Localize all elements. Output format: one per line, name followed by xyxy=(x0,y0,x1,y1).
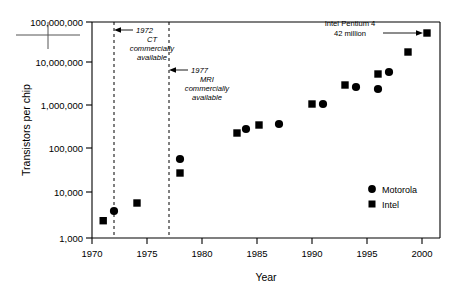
pentium-annotation-arrowhead xyxy=(416,30,423,35)
y-tick-label: 100,000 xyxy=(49,143,83,154)
x-tick-label: 1995 xyxy=(356,248,377,259)
data-point-intel xyxy=(255,121,262,128)
series-motorola-points xyxy=(110,68,393,215)
x-tick-label: 1970 xyxy=(81,248,102,259)
data-point-intel xyxy=(341,81,348,88)
pentium-annotation-line-1: Intel Pentium 4 xyxy=(325,19,376,28)
transistors-per-chip-scatter-chart: 100,000,000 10,000,000 1,000,000 100,000… xyxy=(0,0,459,299)
mri-annotation-line-2: MRI xyxy=(200,75,215,84)
data-point-intel xyxy=(233,129,240,136)
x-tick-label: 1980 xyxy=(191,248,212,259)
ct-annotation-line-2: CT xyxy=(147,35,158,44)
x-tick-label: 1975 xyxy=(136,248,157,259)
data-point-intel xyxy=(133,199,140,206)
data-point-motorola xyxy=(110,207,118,215)
y-axis-title: Transistors per chip xyxy=(20,84,32,176)
legend-label-intel: Intel xyxy=(382,200,399,210)
x-tick-label: 1990 xyxy=(301,248,322,259)
y-tick-label: 1,000 xyxy=(59,233,83,244)
data-point-intel xyxy=(100,217,107,224)
data-point-intel xyxy=(176,169,183,176)
x-tick-label: 2000 xyxy=(411,248,432,259)
data-point-motorola xyxy=(275,120,283,128)
data-point-motorola xyxy=(242,125,250,133)
legend-circle-marker-icon xyxy=(368,185,376,193)
y-tick-label: 10,000 xyxy=(54,187,83,198)
y-tick-label: 100,000,000 xyxy=(30,17,83,28)
data-point-motorola xyxy=(176,155,184,163)
mri-annotation: 1977 MRI commercially available xyxy=(169,66,230,102)
data-point-motorola xyxy=(319,100,327,108)
ct-annotation-line-1: 1972 xyxy=(136,26,154,35)
x-axis-title: Year xyxy=(255,271,277,283)
data-point-intel xyxy=(404,48,411,55)
mri-annotation-arrowhead xyxy=(169,67,176,72)
y-tick-label: 1,000,000 xyxy=(41,100,83,111)
x-axis-ticks xyxy=(92,238,422,244)
x-tick-label: 1985 xyxy=(246,248,267,259)
legend-label-motorola: Motorola xyxy=(382,185,417,195)
data-point-intel xyxy=(423,29,430,36)
pentium-annotation: Intel Pentium 4 42 million xyxy=(325,19,423,38)
ct-annotation-arrowhead xyxy=(114,27,121,32)
ct-annotation-line-3: commercially xyxy=(130,44,176,53)
y-axis-tick-labels: 100,000,000 10,000,000 1,000,000 100,000… xyxy=(30,17,83,244)
data-point-motorola xyxy=(385,68,393,76)
mri-annotation-line-1: 1977 xyxy=(191,66,209,75)
data-point-motorola xyxy=(374,85,382,93)
pentium-annotation-line-2: 42 million xyxy=(334,29,366,38)
legend-item-motorola: Motorola xyxy=(368,185,417,195)
mri-annotation-line-4: available xyxy=(192,93,222,102)
ct-annotation-line-4: available xyxy=(137,53,167,62)
ct-annotation: 1972 CT commercially available xyxy=(114,26,175,62)
legend-square-marker-icon xyxy=(369,201,376,208)
mri-annotation-line-3: commercially xyxy=(185,84,231,93)
chart-legend: Motorola Intel xyxy=(368,185,417,210)
y-axis-ticks xyxy=(86,22,92,238)
legend-item-intel: Intel xyxy=(369,200,400,210)
data-point-motorola xyxy=(352,83,360,91)
data-point-intel xyxy=(374,70,381,77)
y-tick-label: 10,000,000 xyxy=(35,57,83,68)
chart-figure: 100,000,000 10,000,000 1,000,000 100,000… xyxy=(0,0,459,299)
data-point-intel xyxy=(308,100,315,107)
x-axis-tick-labels: 1970 1975 1980 1985 1990 1995 2000 xyxy=(81,248,432,259)
